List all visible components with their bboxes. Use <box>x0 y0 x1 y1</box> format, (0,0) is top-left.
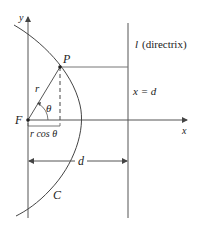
rcos-label: r cos θ <box>30 128 57 139</box>
radius-line <box>28 67 60 120</box>
point-p <box>58 65 62 69</box>
rcos-bracket <box>28 123 60 126</box>
radius-label: r <box>35 82 40 94</box>
focus-point <box>26 118 30 122</box>
x-axis-label: x <box>181 125 187 136</box>
polar-conic-diagram: y x l (directrix) x = d C r θ r cos θ d … <box>0 0 198 231</box>
distance-label: d <box>78 154 85 168</box>
y-axis-label: y <box>18 12 24 23</box>
focus-label: F <box>14 113 23 127</box>
curve-label: C <box>53 188 62 202</box>
directrix-name-label: l <box>135 38 138 50</box>
theta-label: θ <box>46 102 52 114</box>
point-p-label: P <box>62 52 71 66</box>
directrix-equation-label: x = d <box>132 85 157 97</box>
directrix-desc-label: (directrix) <box>142 38 187 51</box>
